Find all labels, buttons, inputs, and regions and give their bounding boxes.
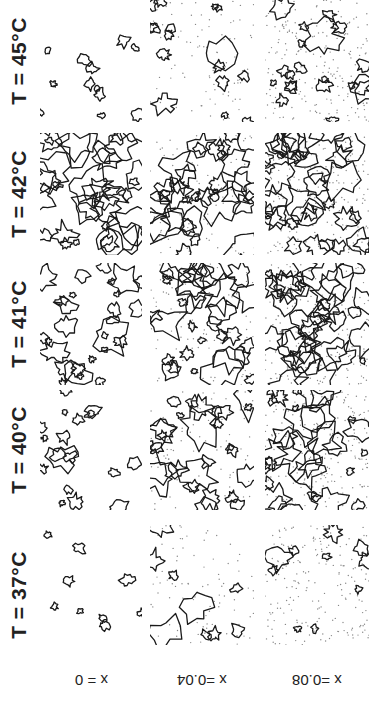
column-label-text: x =0.04	[177, 672, 227, 689]
column-label-x008: x =0.08	[265, 667, 369, 693]
row-label-text: T = 40°C	[7, 406, 31, 494]
simulation-panel	[40, 525, 142, 645]
simulation-panel	[150, 263, 254, 385]
simulation-panel	[150, 0, 254, 122]
simulation-panel	[150, 390, 254, 510]
row-label-text: T = 42°C	[7, 150, 31, 238]
row-label-42c: T = 42°C	[2, 133, 36, 255]
row-label-45c: T = 45°C	[2, 0, 36, 122]
simulation-panel	[265, 263, 369, 385]
row-label-40c: T = 40°C	[2, 390, 36, 510]
row-label-text: T = 41°C	[7, 280, 31, 368]
simulation-panel	[150, 525, 254, 645]
column-label-x0: x = 0	[40, 667, 142, 693]
simulation-panel	[40, 0, 142, 122]
simulation-panel	[265, 133, 369, 255]
row-label-41c: T = 41°C	[2, 263, 36, 385]
simulation-panel	[40, 133, 142, 255]
simulation-panel	[265, 0, 369, 122]
simulation-panel	[40, 390, 142, 510]
column-label-text: x =0.08	[292, 672, 342, 689]
row-label-text: T = 37°C	[7, 551, 31, 639]
column-label-x004: x =0.04	[150, 667, 254, 693]
column-label-text: x = 0	[75, 672, 108, 689]
simulation-panel	[265, 525, 369, 645]
simulation-panel	[40, 263, 142, 385]
simulation-panel	[265, 390, 369, 510]
row-label-text: T = 45°C	[7, 17, 31, 105]
simulation-panel	[150, 133, 254, 255]
row-label-37c: T = 37°C	[2, 540, 36, 650]
